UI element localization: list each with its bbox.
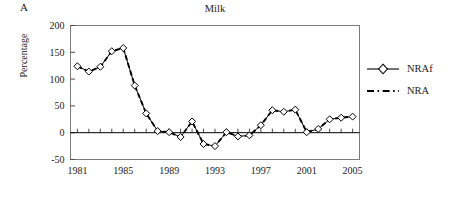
x-axis-ticks: 1981198519891993199720012005 [67, 129, 362, 176]
svg-text:1993: 1993 [205, 165, 225, 176]
series-markers-nraf [74, 45, 356, 150]
svg-text:2005: 2005 [343, 165, 363, 176]
legend-key-nraf-icon [366, 62, 400, 76]
svg-text:0: 0 [60, 127, 65, 138]
svg-text:200: 200 [50, 20, 65, 31]
legend-key-nra-icon [366, 84, 400, 98]
legend-label-nraf: NRAf [407, 64, 433, 75]
svg-text:1981: 1981 [67, 165, 87, 176]
svg-text:100: 100 [50, 74, 65, 85]
svg-text:2001: 2001 [297, 165, 317, 176]
axes [71, 26, 360, 160]
y-axis-ticks: -50050100150200 [50, 20, 76, 165]
svg-text:1985: 1985 [113, 165, 133, 176]
svg-text:-50: -50 [51, 154, 64, 165]
svg-text:1997: 1997 [251, 165, 271, 176]
svg-text:50: 50 [55, 100, 65, 111]
legend-label-nra: NRA [407, 86, 429, 97]
legend: NRAf NRA [366, 58, 454, 102]
legend-item-nra[interactable]: NRA [366, 80, 454, 102]
legend-item-nraf[interactable]: NRAf [366, 58, 454, 80]
svg-text:1989: 1989 [159, 165, 179, 176]
svg-text:150: 150 [50, 47, 65, 58]
figure-milk-nra: A Milk Percentage -50050100150200 198119… [0, 0, 455, 201]
